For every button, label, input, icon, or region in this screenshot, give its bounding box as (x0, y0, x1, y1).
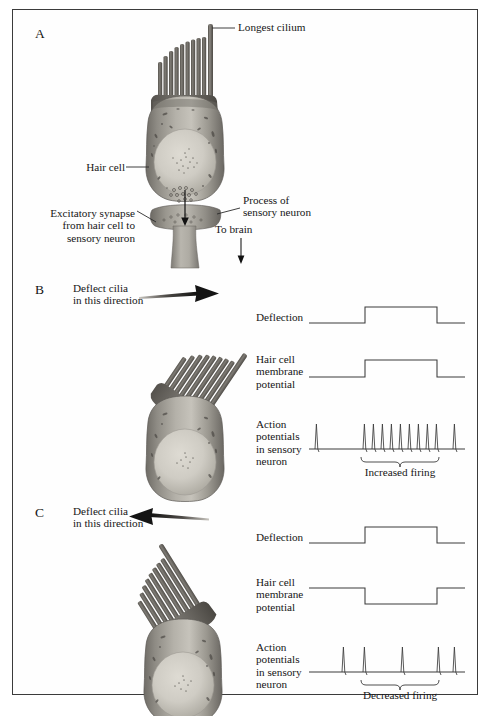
spike-train-c (342, 647, 457, 675)
nucleus-c (152, 652, 214, 716)
figure-frame: A (12, 9, 478, 695)
label-deflection-c: Deflection (256, 531, 303, 543)
hair-cell-c (112, 539, 222, 716)
trace-deflection-c (309, 527, 465, 543)
annotation-decreased-firing: Decreased firing (341, 689, 459, 701)
label-action-potentials-c: Action potentials in sensory neuron (256, 641, 302, 691)
panel-c-graphics (13, 10, 479, 716)
label-membrane-potential-c: Hair cell membrane potential (256, 576, 303, 613)
trace-membrane-potential-c (309, 588, 465, 604)
deflect-arrow-left (129, 508, 209, 525)
